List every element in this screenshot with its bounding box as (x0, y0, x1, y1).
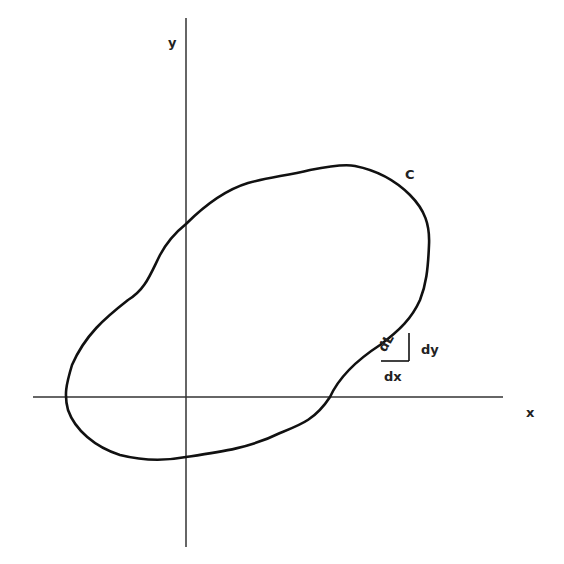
dy-label: dy (421, 342, 439, 357)
y-axis-label: y (168, 35, 177, 50)
curve-label: C (405, 167, 415, 182)
diagram-canvas: y x C dL dy dx (0, 0, 564, 564)
curve-c (66, 165, 429, 460)
dx-label: dx (384, 369, 402, 384)
x-axis-label: x (526, 405, 535, 420)
